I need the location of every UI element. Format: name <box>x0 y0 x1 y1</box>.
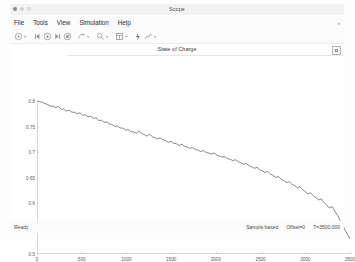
highlight-signal-icon[interactable] <box>134 32 143 41</box>
data-cursor-icon[interactable] <box>77 32 86 41</box>
zoom-dropdown-icon[interactable]: ▾ <box>106 32 108 41</box>
layout-dropdown-icon[interactable]: ▾ <box>125 32 127 41</box>
data-cursor-dropdown-icon[interactable]: ▾ <box>87 32 89 41</box>
print-dropdown-icon[interactable]: ▾ <box>24 32 26 41</box>
menu-overflow-icon[interactable]: » <box>337 20 340 26</box>
run-icon[interactable] <box>43 32 52 41</box>
menubar: File Tools View Simulation Help » <box>10 16 344 29</box>
x-tick-label: 1500 <box>166 257 176 262</box>
panel-expand-icon <box>335 49 338 52</box>
measurements-icon[interactable] <box>144 32 153 41</box>
status-frame-mode: Sample based <box>246 221 278 233</box>
layout-icon[interactable] <box>115 32 124 41</box>
plot-titlebar: State of Charge <box>10 44 344 55</box>
x-tick-mark <box>350 252 351 254</box>
print-icon[interactable] <box>14 32 23 41</box>
window-title: Scope <box>10 4 344 15</box>
statusbar: Ready Sample based Offset=0 T=3500.000 <box>10 221 344 233</box>
x-tick-label: 2000 <box>211 257 221 262</box>
zoom-icon[interactable] <box>96 32 105 41</box>
x-tick-label: 0 <box>36 257 39 262</box>
rewind-icon[interactable] <box>33 32 42 41</box>
y-tick-label: 0.5 <box>29 252 35 257</box>
y-tick-label: 0.65 <box>26 175 35 180</box>
plot-title-divider <box>67 55 344 56</box>
x-tick-label: 500 <box>78 257 86 262</box>
menu-file[interactable]: File <box>14 19 24 26</box>
status-offset: Offset=0 <box>286 221 305 233</box>
stop-icon[interactable] <box>63 32 72 41</box>
status-ready: Ready <box>14 221 28 233</box>
x-tick-label: 1000 <box>121 257 131 262</box>
page-title: State of Charge <box>10 44 344 55</box>
y-tick-label: 0.7 <box>29 150 35 155</box>
status-time: T=3500.000 <box>313 221 340 233</box>
x-tick-label: 3500 <box>345 257 355 262</box>
window-titlebar: Scope <box>10 4 344 15</box>
status-right-group: Sample based Offset=0 T=3500.000 <box>246 221 340 233</box>
toolbar: ▾ <box>10 29 344 43</box>
measurements-dropdown-icon[interactable]: ▾ <box>154 32 156 41</box>
y-tick-label: 0.6 <box>29 201 35 206</box>
menu-tools[interactable]: Tools <box>33 19 48 26</box>
x-tick-label: 3000 <box>300 257 310 262</box>
step-forward-icon[interactable] <box>53 32 62 41</box>
menu-help[interactable]: Help <box>118 19 131 26</box>
y-tick-label: 0.75 <box>26 124 35 129</box>
y-tick-label: 0.8 <box>29 99 35 104</box>
plot-panel: State of Charge 0.50.550.60.650.70.750.8… <box>10 43 344 221</box>
panel-expand-button[interactable] <box>332 46 341 55</box>
menu-view[interactable]: View <box>57 19 71 26</box>
x-tick-label: 2500 <box>255 257 265 262</box>
menu-simulation[interactable]: Simulation <box>79 19 108 26</box>
